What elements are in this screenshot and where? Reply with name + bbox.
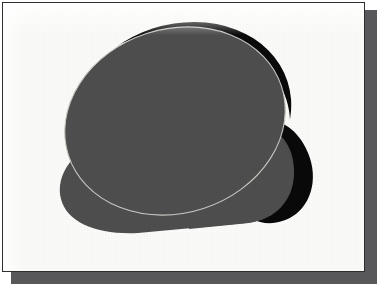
- document-canvas: [2, 2, 365, 272]
- stage: [0, 0, 377, 284]
- cloud-shape-artwork: [3, 3, 365, 272]
